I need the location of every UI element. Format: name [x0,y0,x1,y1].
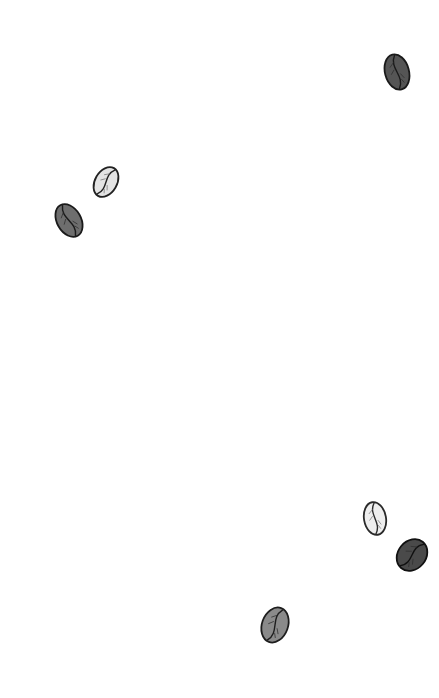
coffee-bean-illustration-canvas [0,0,439,698]
coffee-bean-icon [376,47,418,98]
coffee-bean-icon [44,193,93,246]
coffee-bean-icon [357,495,394,541]
coffee-bean-icon [83,157,129,207]
coffee-bean-icon [252,599,299,652]
